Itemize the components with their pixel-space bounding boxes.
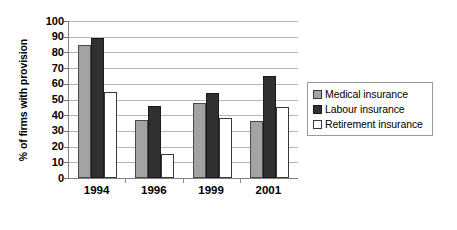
legend-label: Retirement insurance [325,119,423,130]
bar-group [69,21,126,178]
legend-swatch-icon-retirement [313,120,322,129]
legend-item-retirement-insurance: Retirement insurance [313,117,429,131]
legend: Medical insurance Labour insurance Retir… [307,82,433,136]
bar-group [126,21,183,178]
bar [78,45,91,178]
bar-group [241,21,298,178]
x-tick-mark [183,179,184,183]
legend-label: Medical insurance [325,89,408,100]
legend-swatch-icon-labour [313,105,322,114]
legend-label: Labour insurance [325,104,405,115]
legend-item-labour-insurance: Labour insurance [313,102,429,116]
x-tick-label: 1994 [67,184,127,197]
bar-groups [69,21,298,178]
y-tick-label: 40 [4,110,64,121]
bar [263,76,276,178]
bar-group [184,21,241,178]
y-tick-label: 20 [4,141,64,152]
y-tick-label: 80 [4,47,64,58]
bar [219,118,232,178]
bar [135,120,148,178]
bar [276,107,289,178]
bar [148,106,161,178]
bar [206,93,219,178]
bar [250,121,263,178]
x-tick-mark [125,179,126,183]
bar [161,154,174,178]
y-tick-label: 70 [4,63,64,74]
y-tick-label: 30 [4,125,64,136]
plot-area [68,21,298,179]
y-tick-label: 100 [4,16,64,27]
x-tick-mark [240,179,241,183]
legend-swatch-icon-medical [313,90,322,99]
legend-item-medical-insurance: Medical insurance [313,87,429,101]
x-tick-label: 2001 [238,184,298,197]
y-tick-label: 50 [4,94,64,105]
bar-chart: % of firms with provision 01020304050607… [0,0,457,230]
y-tick-label: 90 [4,31,64,42]
y-tick-label: 10 [4,157,64,168]
x-tick-label: 1999 [181,184,241,197]
bar [193,103,206,178]
y-tick-label: 60 [4,78,64,89]
x-tick-label: 1996 [124,184,184,197]
y-tick-label: 0 [4,173,64,184]
bar [91,38,104,178]
bar [104,92,117,178]
